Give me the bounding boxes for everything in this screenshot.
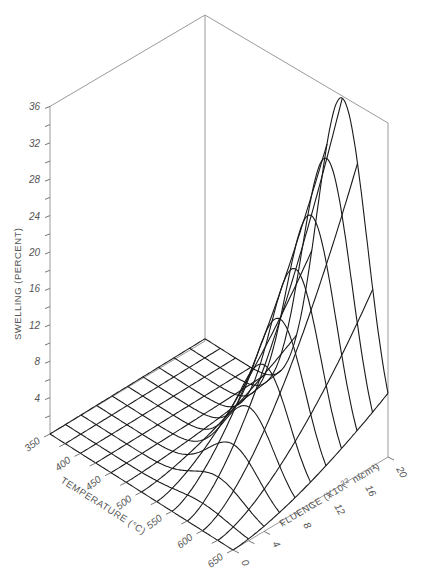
fluence-tick	[388, 457, 394, 460]
temperature-tick	[227, 550, 233, 553]
fluence-tick-label: 16	[363, 483, 378, 499]
fluence-tick-label: 12	[332, 502, 347, 518]
temperature-tick	[90, 463, 96, 466]
temperature-tick	[197, 531, 203, 534]
z-tick	[45, 343, 50, 345]
z-tick	[45, 416, 50, 418]
z-tick-label: 20	[28, 247, 41, 258]
z-tick	[45, 379, 50, 381]
mesh-line-temperature	[142, 335, 297, 492]
z-tick	[45, 398, 50, 400]
mesh-line-temperature	[81, 358, 236, 453]
temperature-tick-label: 650	[205, 551, 225, 570]
z-tick	[45, 161, 50, 163]
temperature-tick	[212, 540, 218, 543]
z-tick-label: 8	[34, 356, 40, 367]
mesh-line-temperature	[218, 289, 373, 540]
z-tick-label: 36	[29, 101, 41, 112]
temperature-tick-label: 400	[53, 454, 73, 473]
z-tick-label: 16	[29, 283, 41, 294]
fluence-tick	[264, 531, 270, 534]
top-left-edge	[50, 15, 205, 106]
mesh-line-temperature	[65, 348, 220, 443]
fluence-tick-label: 20	[394, 464, 410, 480]
z-tick	[45, 361, 50, 363]
temperature-tick	[120, 482, 126, 485]
z-tick-label: 24	[28, 211, 41, 222]
mesh-line-temperature	[172, 144, 327, 511]
z-tick-label: 12	[29, 320, 41, 331]
temperature-tick	[136, 492, 142, 495]
z-tick	[45, 179, 50, 181]
z-tick	[45, 197, 50, 199]
z-tick	[45, 325, 50, 327]
fluence-tick-label: 8	[301, 520, 314, 531]
z-axis-title: SWELLING (PERCENT)	[12, 228, 23, 340]
temperature-tick	[166, 511, 172, 514]
z-tick	[45, 307, 50, 309]
z-tick	[45, 270, 50, 272]
fluence-tick	[249, 541, 255, 544]
z-tick	[45, 216, 50, 218]
temperature-tick	[59, 444, 65, 447]
temperature-tick	[181, 521, 187, 524]
temperature-tick	[44, 434, 50, 437]
temperature-axis-title: TEMPERATURE (°C)	[59, 474, 148, 536]
z-tick	[45, 234, 50, 236]
z-tick-label: 32	[29, 138, 41, 149]
mesh-line-fluence	[159, 269, 342, 449]
fluence-tick	[233, 550, 239, 553]
z-tick-label: 28	[28, 174, 41, 185]
temperature-tick	[105, 473, 111, 476]
swelling-surface-chart: 4812162024283236350400450500550600650048…	[0, 0, 422, 572]
temperature-tick-label: 600	[175, 531, 195, 550]
fluence-tick-label: 4	[270, 539, 283, 550]
z-tick	[45, 125, 50, 127]
temperature-tick	[75, 453, 81, 456]
temperature-tick-label: 350	[22, 435, 42, 454]
temperature-tick	[151, 502, 157, 505]
z-tick	[45, 252, 50, 254]
z-tick	[45, 106, 50, 108]
mesh-line-temperature	[203, 163, 358, 530]
z-tick	[45, 288, 50, 290]
fluence-tick-label: 0	[239, 558, 252, 569]
z-tick	[45, 143, 50, 145]
axes-frame	[50, 15, 388, 550]
z-tick-label: 4	[34, 393, 40, 404]
mesh-line-fluence	[112, 396, 295, 498]
top-back-edge	[205, 15, 388, 123]
